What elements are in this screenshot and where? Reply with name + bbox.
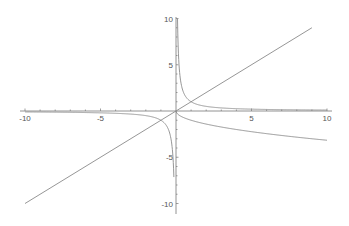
axes (20, 17, 332, 214)
y-tick-label: 10 (164, 15, 173, 24)
y-tick-labels: 105-5-10 (161, 15, 173, 209)
x-tick-label: 5 (249, 114, 254, 123)
x-tick-label: -10 (19, 114, 31, 123)
function-plot: -10-5510 105-5-10 (0, 0, 349, 226)
y-tick-label: -10 (161, 200, 173, 209)
x-tick-label: -5 (97, 114, 105, 123)
line-y-equals-x (25, 28, 312, 204)
y-tick-label: 5 (169, 61, 174, 70)
x-tick-label: 10 (323, 114, 332, 123)
